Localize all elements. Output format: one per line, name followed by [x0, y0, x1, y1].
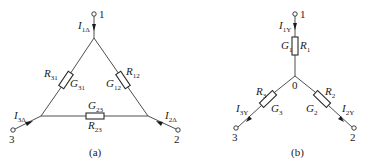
wye-terminal-2[interactable] [352, 126, 356, 130]
delta-current-1-label: I1Δ [77, 19, 90, 34]
delta-current-arrow-3 [25, 121, 33, 126]
delta-current-3-label: I3Δ [13, 109, 26, 124]
resistor-r1[interactable] [292, 37, 298, 55]
wye-network: 1 I1Y G1 R1 0 3 R3 G3 I3Y 2 R2 G2 I2Y (b… [232, 8, 356, 159]
delta-wire-31b [41, 86, 62, 116]
g1-label: G1 [281, 39, 293, 54]
r23-label: R23 [87, 119, 102, 134]
r1-label: R1 [299, 39, 311, 54]
delta-terminal-3[interactable] [11, 128, 15, 132]
delta-current-2-label: I2Δ [164, 109, 177, 124]
delta-caption: (a) [89, 146, 102, 159]
g31-label: G31 [70, 77, 85, 92]
delta-current-arrow-1 [92, 24, 96, 31]
wye-terminal-3[interactable] [234, 126, 238, 130]
g2-label: G2 [306, 102, 318, 117]
wye-current-1-label: I1Y [278, 19, 291, 34]
wye-current-3-label: I3Y [235, 102, 248, 117]
wye-current-2-label: I2Y [341, 102, 354, 117]
r3-label: R3 [255, 85, 267, 100]
wye-terminal-1-label: 1 [300, 8, 306, 20]
wye-terminal-2-label: 2 [350, 131, 356, 143]
wye-terminal-3-label: 3 [232, 131, 238, 143]
delta-terminal-2-label: 2 [174, 133, 180, 145]
delta-terminal-1-label: 1 [99, 8, 105, 20]
wye-wire-2a [295, 76, 315, 92]
delta-wire-12a [94, 38, 119, 74]
r12-label: R12 [125, 65, 140, 80]
g3-label: G3 [271, 102, 283, 117]
wye-current-arrow-1 [293, 23, 297, 30]
wye-center-label: 0 [292, 79, 298, 91]
r31-label: R31 [43, 67, 58, 82]
g23-label: G23 [88, 99, 103, 114]
delta-current-arrow-2 [156, 121, 163, 126]
delta-terminal-3-label: 3 [9, 133, 15, 145]
wye-terminal-1[interactable] [293, 12, 297, 16]
delta-wire-12b [127, 86, 148, 116]
delta-terminal-2[interactable] [176, 128, 180, 132]
delta-terminal-1[interactable] [92, 12, 96, 16]
delta-wire-31a [70, 38, 94, 74]
delta-network: 1 I1Δ R31 G31 R12 G12 G23 R23 3 I3Δ 2 I2… [9, 8, 180, 159]
wye-caption: (b) [291, 146, 304, 159]
